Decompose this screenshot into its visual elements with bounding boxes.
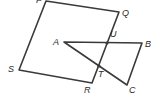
vertex-label-c: C [129,85,136,95]
vertex-label-b: B [145,39,151,49]
intersection-point-t [97,64,100,67]
point-label-u: U [110,29,117,39]
geometry-diagram: P Q R S A B C U T [0,0,156,102]
vertex-label-a: A [52,37,59,47]
vertex-label-p: P [36,0,42,5]
vertex-label-q: Q [122,8,129,18]
vertex-label-s: S [8,64,14,74]
vertex-label-r: R [84,85,91,95]
point-label-t: T [98,69,105,79]
intersection-point-u [105,41,108,44]
